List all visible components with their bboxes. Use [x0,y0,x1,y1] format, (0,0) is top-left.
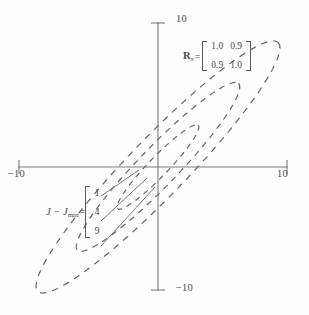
matrix-cell-r0c0: 1.0 [211,42,223,52]
jlegend-values: 1 4 9 [90,186,102,238]
correlation-matrix-annotation: Rx = 1.0 0.9 0.9 1.0 [183,41,251,71]
x-axis-min-label: −10 [8,168,25,179]
y-axis-min-label: −10 [176,282,193,293]
plot-canvas [0,0,309,315]
jlegend-bracketed-values: 1 4 9 [85,186,102,238]
matrix-symbol-letter: R [183,50,191,61]
matrix-equals-sign: = [195,51,201,62]
matrix-cell-r1c1: 1.0 [230,61,242,71]
matrix-bracketed-values: 1.0 0.9 0.9 1.0 [202,41,251,71]
jlegend-value-9: 9 [94,226,99,236]
leader-lines-group [101,170,155,246]
leader-line-4 [101,178,147,221]
x-axis-max-label: 10 [277,168,288,179]
matrix-cell-r1c0: 0.9 [211,61,223,71]
contour-plot-figure: −10 10 10 −10 Rx = 1.0 0.9 0.9 1.0 J − J… [0,0,309,315]
jlegend-label-subscript: min [68,210,79,218]
matrix-symbol: Rx [183,50,194,63]
y-axis-max-label: 10 [176,13,187,24]
leader-line-1 [101,170,139,196]
matrix-right-bracket [246,41,251,71]
matrix-cell-r0c1: 0.9 [230,42,242,52]
matrix-symbol-subscript: x [191,54,194,62]
jlegend-value-4: 4 [94,207,99,217]
jlegend-value-1: 1 [94,188,99,198]
contour-level-legend: J − Jmin= 1 4 9 [46,186,102,238]
jlegend-label: J − Jmin= [46,206,85,219]
matrix-grid: 1.0 0.9 0.9 1.0 [207,41,246,71]
jlegend-label-text: J − J [46,206,68,217]
